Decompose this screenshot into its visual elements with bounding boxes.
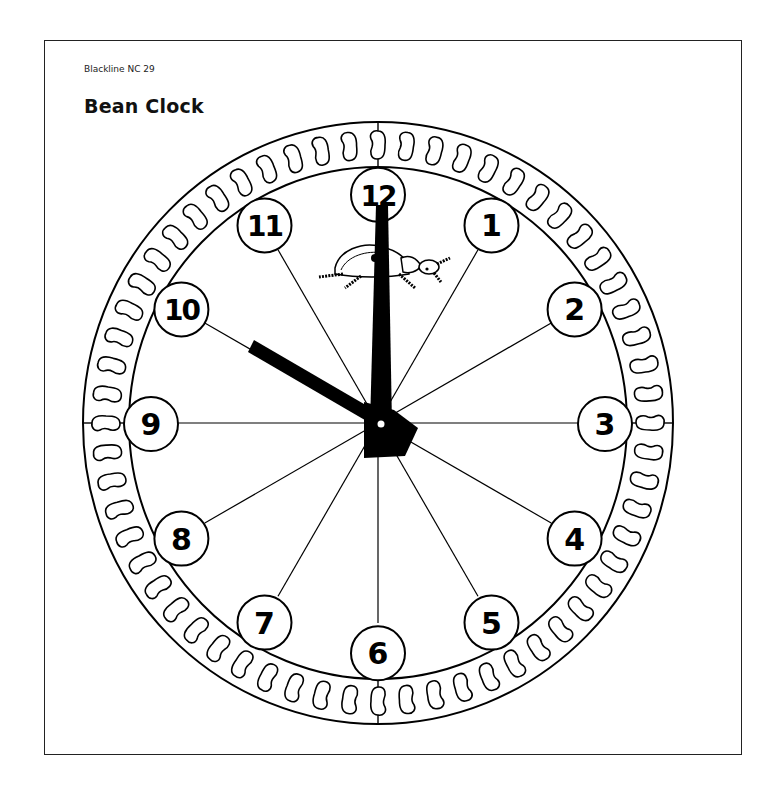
bean-icon <box>104 498 135 521</box>
hour-number-5: 5 <box>465 596 519 650</box>
hands-hub <box>364 402 418 458</box>
bean-icon <box>565 222 596 252</box>
bean-icon <box>621 497 652 520</box>
bean-icon <box>629 471 660 491</box>
hour-spoke <box>205 423 378 523</box>
bean-icon <box>634 385 664 403</box>
bean-icon <box>425 680 445 711</box>
bean-icon <box>282 143 305 174</box>
svg-text:7: 7 <box>254 606 275 641</box>
hour-number-8: 8 <box>154 512 208 566</box>
minute-hand[interactable] <box>370 205 392 424</box>
svg-text:1: 1 <box>481 208 502 243</box>
svg-text:6: 6 <box>368 636 389 671</box>
bean-icon <box>545 614 575 645</box>
bean-icon <box>341 685 359 715</box>
bean-icon <box>311 136 331 167</box>
bean-icon <box>228 166 255 198</box>
bean-icon <box>370 131 385 159</box>
svg-text:3: 3 <box>595 407 616 442</box>
bean-icon <box>501 648 528 680</box>
svg-text:5: 5 <box>481 606 502 641</box>
bean-icon <box>104 326 135 349</box>
hour-number-9: 9 <box>124 397 178 451</box>
bean-icon <box>500 166 527 198</box>
bean-icon <box>229 648 256 680</box>
bean-icon <box>181 201 211 232</box>
bean-icon <box>524 182 552 213</box>
bean-icon <box>629 355 660 375</box>
bean-icon <box>545 201 575 232</box>
hour-number-6: 6 <box>351 626 405 680</box>
svg-text:2: 2 <box>564 292 585 327</box>
svg-text:10: 10 <box>164 294 200 327</box>
bean-icon <box>283 672 306 703</box>
hour-number-10: 10 <box>154 282 208 336</box>
hour-number-2: 2 <box>548 282 602 336</box>
bean-icon <box>621 326 652 349</box>
bean-icon <box>114 524 146 549</box>
bean-icon <box>126 271 158 298</box>
bean-icon <box>142 245 173 273</box>
svg-text:9: 9 <box>141 407 162 442</box>
bean-icon <box>161 594 192 624</box>
bean-icon <box>181 614 211 645</box>
bean-icon <box>160 222 191 252</box>
bean-icon <box>204 632 232 663</box>
bean-icon <box>611 524 643 549</box>
bean-icon <box>424 136 444 167</box>
hour-number-4: 4 <box>548 512 602 566</box>
bean-icon <box>97 471 128 491</box>
bean-icon <box>565 594 596 624</box>
bean-icon <box>92 416 120 431</box>
hour-spoke <box>378 323 551 423</box>
svg-text:4: 4 <box>564 522 585 557</box>
hour-number-11: 11 <box>238 198 292 252</box>
bean-icon <box>311 680 331 711</box>
bean-icon <box>93 443 123 461</box>
bean-icon <box>582 245 613 273</box>
bean-icon <box>204 182 232 213</box>
bean-icon <box>142 572 173 600</box>
bean-icon <box>114 298 146 323</box>
hour-number-7: 7 <box>238 596 292 650</box>
hour-number-3: 3 <box>578 397 632 451</box>
bean-icon <box>451 672 474 703</box>
bean-icon <box>255 661 280 693</box>
svg-text:11: 11 <box>247 210 282 243</box>
bean-icon <box>341 132 359 162</box>
hour-spoke <box>278 423 378 596</box>
hour-number-1: 1 <box>465 198 519 252</box>
bean-icon <box>127 549 159 576</box>
bean-icon <box>255 153 280 185</box>
bean-icon <box>397 132 415 162</box>
bean-icon <box>398 685 416 715</box>
pivot-dot <box>378 421 385 428</box>
svg-text:8: 8 <box>171 522 192 557</box>
bean-icon <box>636 415 664 430</box>
bean-icon <box>583 572 614 600</box>
bean-icon <box>451 143 474 174</box>
bean-icon <box>598 270 630 297</box>
bean-icon <box>96 355 127 375</box>
bean-icon <box>611 297 643 322</box>
bean-icon <box>634 443 664 461</box>
bean-icon <box>93 385 123 403</box>
bean-icon <box>524 632 552 663</box>
bean-icon <box>476 661 501 693</box>
bean-icon <box>598 548 630 575</box>
bean-icon <box>476 153 501 185</box>
bean-icon <box>371 687 386 715</box>
bean-clock: 121234567891011 <box>0 0 782 794</box>
